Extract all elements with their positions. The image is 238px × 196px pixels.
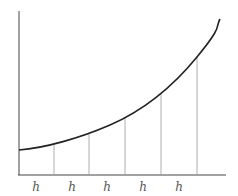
curve-diagram (0, 0, 238, 196)
interval-label-4: h (133, 180, 153, 194)
interval-label-1: h (26, 180, 46, 194)
interval-label-2: h (62, 180, 82, 194)
curve (19, 19, 220, 150)
ordinates (54, 57, 197, 175)
interval-label-3: h (97, 180, 117, 194)
interval-label-5: h (169, 180, 189, 194)
